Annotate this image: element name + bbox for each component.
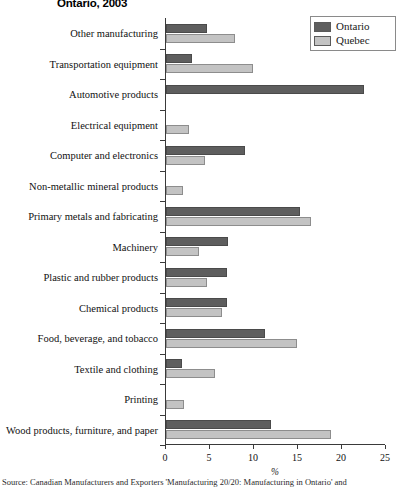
bar-ontario <box>166 268 227 277</box>
bar-group: Primary metals and fabricating <box>165 201 385 232</box>
x-axis-tick-label: 20 <box>336 452 346 463</box>
y-axis-category-label: Chemical products <box>79 302 158 313</box>
bar-group: Non-metallic mineral products <box>165 171 385 202</box>
y-axis-category-label: Transportation equipment <box>50 58 158 69</box>
x-axis-tick-label: 0 <box>163 452 168 463</box>
y-axis-category-label: Food, beverage, and tobacco <box>38 333 158 344</box>
bar-group: Textile and clothing <box>165 354 385 385</box>
source-note: Source: Canadian Manufacturers and Expor… <box>2 478 347 487</box>
bar-group: Electrical equipment <box>165 110 385 141</box>
bar-quebec <box>166 400 184 409</box>
bar-ontario <box>166 237 228 246</box>
y-axis-category-label: Non-metallic mineral products <box>29 180 158 191</box>
bar-ontario <box>166 329 265 338</box>
bar-ontario <box>166 359 182 368</box>
x-axis-tick <box>297 445 298 449</box>
bar-quebec <box>166 339 297 348</box>
y-axis-category-label: Wood products, furniture, and paper <box>6 424 158 435</box>
bar-group: Wood products, furniture, and paper <box>165 415 385 446</box>
bar-ontario <box>166 24 207 33</box>
bar-quebec <box>166 369 215 378</box>
bar-quebec <box>166 64 253 73</box>
bar-quebec <box>166 34 235 43</box>
bar-quebec <box>166 247 199 256</box>
bar-group: Food, beverage, and tobacco <box>165 323 385 354</box>
bar-quebec <box>166 430 331 439</box>
bar-ontario <box>166 54 192 63</box>
y-axis-category-label: Textile and clothing <box>74 363 158 374</box>
bar-quebec <box>166 217 311 226</box>
bar-group: Computer and electronics <box>165 140 385 171</box>
plot-area: 0510152025%Other manufacturingTransporta… <box>165 18 385 445</box>
y-axis-category-label: Plastic and rubber products <box>43 272 158 283</box>
bar-group: Plastic and rubber products <box>165 262 385 293</box>
x-axis-title: % <box>271 467 279 477</box>
bar-group: Automotive products <box>165 79 385 110</box>
x-axis-tick <box>165 445 166 449</box>
bar-quebec <box>166 278 207 287</box>
bar-group: Machinery <box>165 232 385 263</box>
bar-group: Transportation equipment <box>165 49 385 80</box>
y-axis-category-label: Computer and electronics <box>50 150 158 161</box>
bar-group: Chemical products <box>165 293 385 324</box>
x-axis-tick-label: 15 <box>292 452 302 463</box>
chart-title: Ontario, 2003 <box>57 0 127 9</box>
bar-ontario <box>166 146 245 155</box>
x-axis-tick-label: 5 <box>207 452 212 463</box>
y-axis-category-label: Electrical equipment <box>71 119 158 130</box>
x-axis-tick <box>209 445 210 449</box>
bar-ontario <box>166 207 300 216</box>
y-axis-tick <box>160 445 165 446</box>
x-axis-tick <box>253 445 254 449</box>
x-axis-tick <box>341 445 342 449</box>
bar-quebec <box>166 156 205 165</box>
bar-ontario <box>166 298 227 307</box>
y-axis-category-label: Machinery <box>113 241 158 252</box>
y-axis-category-label: Other manufacturing <box>70 28 158 39</box>
bar-quebec <box>166 308 222 317</box>
bar-quebec <box>166 125 189 134</box>
bar-quebec <box>166 186 183 195</box>
y-axis-category-label: Printing <box>124 394 158 405</box>
bar-ontario <box>166 85 364 94</box>
bar-ontario <box>166 420 271 429</box>
x-axis-tick-label: 10 <box>248 452 258 463</box>
bar-group: Other manufacturing <box>165 18 385 49</box>
bar-group: Printing <box>165 384 385 415</box>
x-axis-tick <box>385 445 386 449</box>
x-axis-tick-label: 25 <box>380 452 390 463</box>
y-axis-category-label: Automotive products <box>69 89 158 100</box>
y-axis-category-label: Primary metals and fabricating <box>28 211 158 222</box>
